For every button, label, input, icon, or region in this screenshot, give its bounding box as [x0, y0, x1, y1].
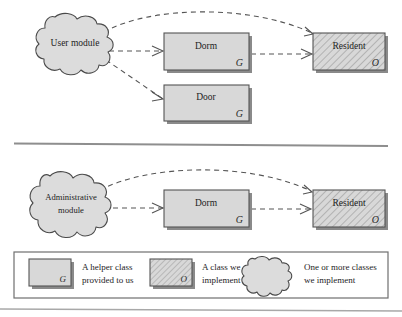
- box-label-door-top: Door: [196, 92, 216, 102]
- node-box-dorm-top[interactable]: Dorm G: [164, 33, 252, 73]
- cloud-label-administrative-line-2: module: [58, 205, 84, 215]
- node-cloud-administrative-module[interactable]: Administrative module: [30, 172, 111, 238]
- arrowhead-admin-to-resident: [303, 185, 312, 194]
- box-label-resident-top: Resident: [332, 41, 366, 51]
- cloud-label-user-module: User module: [51, 38, 100, 48]
- arrowhead-user-to-door: [152, 92, 163, 101]
- legend-label-cloud-line-2: we implement: [304, 275, 356, 285]
- legend-marker-implement: O: [181, 274, 188, 284]
- node-cloud-user-module[interactable]: User module: [36, 13, 113, 74]
- legend-marker-helper: G: [60, 274, 67, 284]
- edge-admin-to-resident: [100, 170, 311, 191]
- box-label-dorm-bottom: Dorm: [195, 198, 218, 208]
- cloud-label-administrative-line-1: Administrative: [45, 192, 97, 202]
- section-separator-line: [14, 144, 388, 147]
- legend-label-implement-line-2: implement: [202, 275, 241, 285]
- box-marker-resident-bottom: O: [372, 214, 379, 225]
- diagram-canvas: User module Dorm G Door G Resident: [0, 0, 402, 317]
- diagram-root: User module Dorm G Door G Resident: [0, 0, 402, 317]
- node-box-resident-top[interactable]: Resident O: [313, 33, 388, 73]
- edge-user-to-resident: [104, 12, 312, 33]
- box-marker-door-top: G: [236, 108, 243, 119]
- box-label-resident-bottom: Resident: [332, 198, 366, 208]
- box-marker-dorm-top: G: [236, 57, 243, 68]
- legend-label-implement-line-1: A class we: [202, 262, 241, 272]
- legend-swatch-cloud: [242, 256, 292, 296]
- box-marker-dorm-bottom: G: [236, 214, 243, 225]
- legend-label-cloud-line-1: One or more classes: [304, 262, 377, 272]
- legend-label-helper-line-1: A helper class: [82, 262, 133, 272]
- legend-label-helper-line-2: provided to us: [82, 275, 134, 285]
- node-box-resident-bottom[interactable]: Resident O: [313, 190, 388, 230]
- box-label-dorm-top: Dorm: [195, 41, 218, 51]
- legend: G A helper class provided to us O A clas…: [14, 252, 388, 298]
- bottom-separator-line: [0, 309, 402, 311]
- node-box-door-top[interactable]: Door G: [164, 85, 252, 124]
- section-administrative-module: Administrative module Dorm G Resident O: [30, 170, 388, 238]
- section-user-module: User module Dorm G Door G Resident: [36, 12, 388, 124]
- node-box-dorm-bottom[interactable]: Dorm G: [164, 190, 252, 230]
- box-marker-resident-top: O: [372, 57, 379, 68]
